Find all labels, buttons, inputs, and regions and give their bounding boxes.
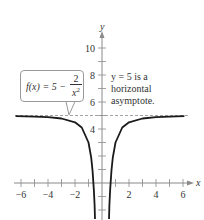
denominator-exponent: 2 — [76, 86, 80, 94]
y-tick-label: 6 — [90, 97, 95, 108]
asymptote-note: y = 5 is a horizontal asymptote. — [111, 71, 181, 107]
y-axis: 4 6 8 10 y — [85, 21, 106, 220]
callout-pointer — [66, 102, 75, 116]
x-tick-label: −2 — [70, 189, 81, 200]
x-axis: −6 −4 −2 2 4 6 x — [14, 177, 201, 200]
note-line: y = 5 is a — [111, 71, 181, 83]
fraction-numerator: 2 — [70, 73, 82, 85]
y-axis-arrow-icon — [100, 31, 105, 38]
function-callout: f(x) = 5 − 2 x2 — [20, 70, 84, 102]
function-graph: −6 −4 −2 2 4 6 x 4 6 8 10 y — [0, 0, 204, 220]
function-formula: f(x) = 5 − — [26, 81, 66, 92]
x-axis-label: x — [195, 177, 201, 188]
x-tick-label: 2 — [127, 189, 132, 200]
note-line: horizontal — [111, 83, 181, 95]
y-tick-label: 8 — [90, 70, 95, 81]
x-tick-label: 4 — [154, 189, 159, 200]
fraction-denominator: x2 — [70, 85, 82, 98]
y-tick-label: 10 — [85, 43, 95, 54]
function-fraction: 2 x2 — [70, 73, 82, 98]
x-tick-label: −6 — [16, 189, 27, 200]
curve-left-branch — [16, 116, 95, 219]
x-tick-label: −4 — [43, 189, 54, 200]
x-tick-label: 6 — [181, 189, 186, 200]
x-axis-arrow-icon — [187, 181, 194, 186]
curve-right-branch — [109, 116, 184, 219]
y-tick-label: 4 — [90, 124, 95, 135]
y-axis-label: y — [99, 21, 105, 32]
note-line: asymptote. — [111, 95, 181, 107]
